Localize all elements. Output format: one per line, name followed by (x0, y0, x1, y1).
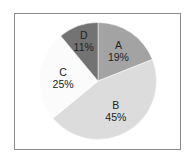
slice-label-name: B (112, 99, 119, 111)
slice-label-name: A (115, 39, 122, 51)
slice-label-percent: 25% (53, 78, 74, 90)
slice-label-percent: 19% (108, 51, 129, 63)
slice-label-percent: 45% (105, 111, 126, 123)
slice-label-name: C (59, 66, 67, 78)
pie-chart: A19%B45%C25%D11% (0, 0, 195, 159)
slice-label-name: D (80, 29, 88, 41)
slice-label-percent: 11% (74, 41, 94, 53)
